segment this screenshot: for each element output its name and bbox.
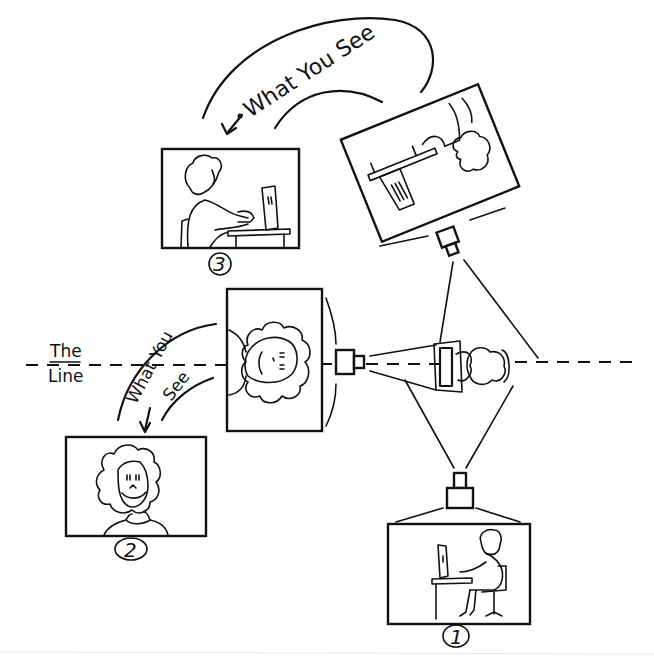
left-arc-label-2: See [158,367,193,404]
shot-1-frame [388,524,530,624]
closeup-face-frame [227,289,322,431]
the-line-label-1: The [49,341,82,361]
shot-1-number: 1 [450,625,463,649]
camera-1-icon [396,473,520,522]
shot-2-frame [66,437,206,536]
overhead-rotated-frame [341,84,519,241]
the-line-label-2: Line [48,366,83,386]
the-line [26,362,640,365]
top-arc-label: What You See [239,19,379,122]
shot-3-frame [162,149,299,248]
shot-2-number: 2 [124,538,137,562]
camera-line-diagram: The Line What You See What You See [0,0,654,667]
shot-3-number: 3 [213,252,226,276]
subject-overhead [434,341,509,392]
